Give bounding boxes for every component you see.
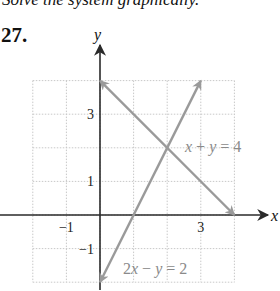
- x-tick-label: 3: [197, 220, 204, 235]
- y-axis-label: y: [92, 26, 102, 44]
- grid: [33, 81, 235, 283]
- x-tick-label: −1: [59, 220, 74, 235]
- y-tick-label: 1: [87, 174, 94, 189]
- y-tick-label: −1: [79, 242, 94, 257]
- x-axis-label: x: [270, 207, 278, 224]
- y-tick-label: 3: [87, 107, 94, 122]
- equation-label-2: 2x − y = 2: [123, 260, 187, 278]
- coordinate-graph: xy−1331−1x + y = 42x − y = 2: [0, 0, 280, 291]
- equation-label-1: x + y = 4: [184, 138, 241, 156]
